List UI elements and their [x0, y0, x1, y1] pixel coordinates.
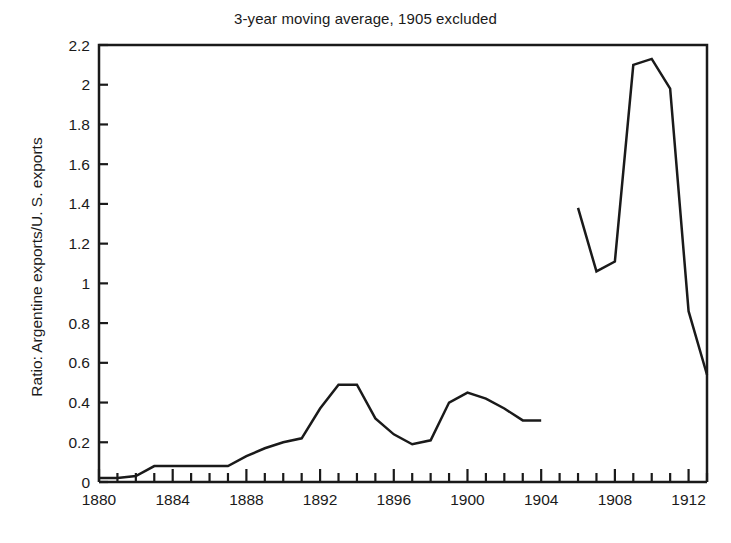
svg-text:1.2: 1.2: [68, 235, 90, 252]
svg-text:2: 2: [81, 76, 90, 93]
svg-text:2.2: 2.2: [68, 37, 90, 54]
svg-text:1896: 1896: [377, 491, 411, 508]
svg-text:0.8: 0.8: [68, 315, 90, 332]
svg-text:1900: 1900: [450, 491, 485, 508]
svg-text:1884: 1884: [155, 491, 190, 508]
axis-tick-labels: 00.20.40.60.811.21.41.61.822.21880188418…: [68, 37, 705, 509]
axis-ticks: [99, 45, 707, 482]
svg-text:1880: 1880: [82, 491, 117, 508]
svg-text:0: 0: [81, 474, 90, 491]
svg-text:1912: 1912: [671, 491, 705, 508]
data-line-series: [99, 59, 707, 478]
svg-text:0.2: 0.2: [68, 434, 90, 451]
svg-text:1908: 1908: [598, 491, 632, 508]
svg-text:1904: 1904: [524, 491, 559, 508]
svg-text:1892: 1892: [303, 491, 337, 508]
svg-text:1: 1: [81, 275, 90, 292]
plot-area: 00.20.40.60.811.21.41.61.822.21880188418…: [0, 0, 731, 543]
svg-text:0.4: 0.4: [68, 394, 90, 411]
chart-figure: 3-year moving average, 1905 excluded Rat…: [0, 0, 731, 543]
svg-text:1.4: 1.4: [68, 195, 90, 212]
svg-text:1888: 1888: [229, 491, 263, 508]
svg-text:0.6: 0.6: [68, 354, 90, 371]
axes: [99, 45, 707, 482]
svg-text:1.6: 1.6: [68, 156, 90, 173]
svg-text:1.8: 1.8: [68, 116, 90, 133]
